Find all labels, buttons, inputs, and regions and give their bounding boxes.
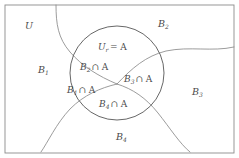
label-universe-u: U [25,20,34,31]
label-b2-cap-a-op: ∩ A [91,62,108,72]
label-b3-cap-a-op: ∩ A [135,74,152,84]
label-region-b4-base: B [115,131,123,142]
label-b4-cap-a-sub: 4 [105,102,110,109]
label-region-b2-base: B [157,18,165,29]
label-b1-cap-a-sub: 1 [74,88,78,95]
label-ur-equals-a: Ur= A [98,42,127,53]
label-b2-cap-a-sub: 2 [86,65,91,72]
label-b1-cap-a-op: ∩ A [78,85,95,95]
venn-diagram-root: U B2 B1 B3 B4 Ur= A B2∩ A B3∩ [0,0,239,158]
label-region-b3-sub: 3 [199,90,203,97]
label-b1-cap-a: B1∩ A [66,85,96,96]
label-region-b1-base: B [37,64,45,75]
label-region-b4-sub: 4 [122,135,127,142]
label-ur-equals-a-op: = A [110,42,127,52]
label-b4-cap-a: B4∩ A [98,99,128,110]
label-region-b1-sub: 1 [45,68,49,75]
label-region-b3-base: B [191,86,199,97]
venn-diagram-canvas: U B2 B1 B3 B4 Ur= A B2∩ A B3∩ [0,0,239,158]
label-b3-cap-a: B3∩ A [123,74,153,85]
label-b3-cap-a-sub: 3 [131,77,135,84]
label-b2-cap-a: B2∩ A [79,62,109,73]
label-region-b2-sub: 2 [164,22,169,29]
label-universe-u-base: U [25,20,34,31]
label-b4-cap-a-op: ∩ A [110,99,127,109]
